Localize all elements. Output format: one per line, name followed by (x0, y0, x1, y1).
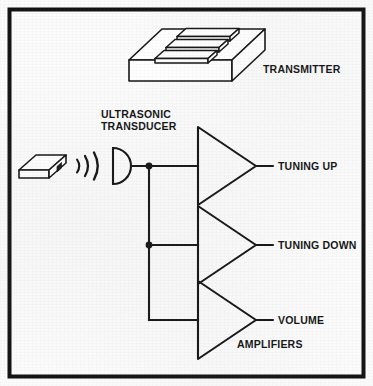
signal-bus-vertical (149, 166, 198, 320)
volume-label: VOLUME (278, 314, 324, 326)
amplifier-triangle-tuning-up (198, 127, 256, 205)
ultrasonic-transducer-symbol (113, 148, 131, 184)
ultrasonic-wave-arcs (77, 153, 98, 180)
transmitter-label: TRANSMITTER (263, 63, 341, 75)
transducer-label-line2: TRANSDUCER (101, 120, 177, 132)
junction-dot-middle (146, 242, 153, 249)
ultrasonic-remote-block-diagram: TRANSMITTER ULTRASONIC TRANSDUCER (0, 0, 373, 386)
tuning-down-label: TUNING DOWN (278, 239, 357, 251)
junction-dot-top (146, 163, 153, 170)
tuning-up-label: TUNING UP (278, 160, 338, 172)
amplifier-triangle-tuning-down (198, 206, 256, 284)
transducer-label-line1: ULTRASONIC (101, 108, 171, 120)
amplifiers-group-label: AMPLIFIERS (237, 338, 303, 350)
figure-canvas: TRANSMITTER ULTRASONIC TRANSDUCER (0, 0, 373, 386)
